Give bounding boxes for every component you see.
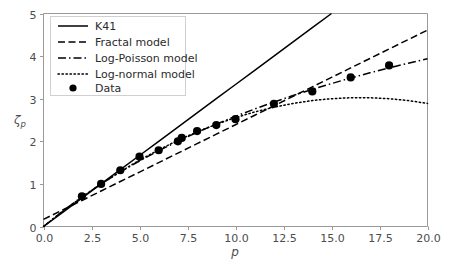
data-point — [135, 153, 143, 161]
x-tick-label: 17.5 — [368, 232, 393, 245]
data-point — [155, 146, 163, 154]
x-tick-label: 5.0 — [132, 232, 150, 245]
legend-label-k41: K41 — [95, 20, 116, 33]
y-axis-label: ζp — [13, 113, 26, 129]
data-point — [178, 134, 186, 142]
data-point — [78, 192, 86, 200]
legend-label-fractal-model: Fractal model — [95, 36, 170, 49]
data-point — [193, 127, 201, 135]
x-tick-label: 0.0 — [36, 232, 54, 245]
x-tick-label: 20.0 — [416, 232, 441, 245]
x-axis-label: p — [230, 245, 239, 259]
legend-marker-data — [69, 84, 76, 91]
x-tick-label: 2.5 — [84, 232, 102, 245]
y-tick-label: 1 — [30, 179, 37, 192]
figure-container: 0.02.55.07.510.012.515.017.520.0 012345 … — [0, 0, 454, 265]
x-tick-label: 7.5 — [180, 232, 198, 245]
legend: K41Fractal modelLog-Poisson modelLog-nor… — [51, 17, 198, 96]
x-axis-ticks: 0.02.55.07.510.012.515.017.520.0 — [36, 227, 441, 245]
data-point — [97, 180, 105, 188]
chart-canvas: 0.02.55.07.510.012.515.017.520.0 012345 … — [0, 0, 454, 265]
legend-label-log-normal-model: Log-normal model — [95, 68, 195, 81]
y-tick-label: 5 — [30, 9, 37, 22]
y-axis-label-text: ζp — [13, 113, 26, 129]
legend-label-log-poisson-model: Log-Poisson model — [95, 52, 198, 65]
data-point — [385, 61, 393, 69]
data-point — [231, 115, 239, 123]
y-tick-label: 2 — [30, 136, 37, 149]
data-point — [270, 100, 278, 108]
y-tick-label: 4 — [30, 51, 37, 64]
y-tick-label: 0 — [30, 222, 37, 235]
legend-label-data: Data — [95, 82, 121, 95]
data-point — [116, 166, 124, 174]
data-point — [347, 73, 355, 81]
x-tick-label: 15.0 — [320, 232, 345, 245]
x-tick-label: 10.0 — [224, 232, 249, 245]
y-axis-ticks: 012345 — [30, 9, 44, 235]
data-point — [212, 121, 220, 129]
x-tick-label: 12.5 — [272, 232, 297, 245]
data-point — [308, 87, 316, 95]
y-tick-label: 3 — [30, 94, 37, 107]
